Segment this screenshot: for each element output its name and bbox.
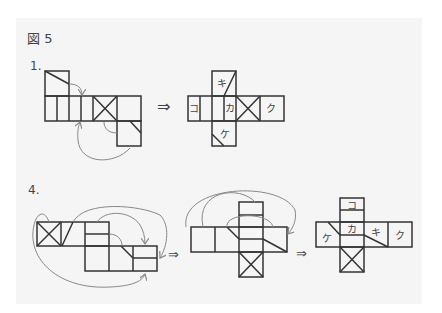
label-ki: キ: [217, 78, 227, 89]
label-ka-4: カ: [347, 224, 357, 235]
label-ko: コ: [189, 103, 199, 114]
problem-1-net-unfolded: [45, 71, 141, 146]
problem-1-arrow: ⇒: [157, 97, 170, 116]
problem-4-arrow-2: ⇒: [296, 246, 307, 261]
label-ke: ケ: [220, 129, 230, 140]
label-ko-4: コ: [347, 200, 357, 211]
label-ki-4: キ: [371, 227, 381, 238]
figure-svg: 図 5 1. 4. ⇒ キ コ カ ク ケ: [0, 0, 442, 313]
problem-4-arrow-1: ⇒: [168, 247, 179, 262]
problem-4-net-intermediate: [191, 202, 287, 277]
problem-1-label: 1.: [30, 59, 41, 73]
problem-4-label: 4.: [28, 183, 39, 197]
label-ku-4: ク: [395, 230, 405, 241]
label-ka: カ: [225, 103, 235, 114]
problem-4-fold-arrows-1: [33, 206, 167, 287]
problem-4-net-unfolded: [37, 222, 157, 271]
label-ke-4: ケ: [322, 233, 332, 244]
label-ku: ク: [266, 103, 276, 114]
figure-title: 図 5: [27, 31, 52, 46]
